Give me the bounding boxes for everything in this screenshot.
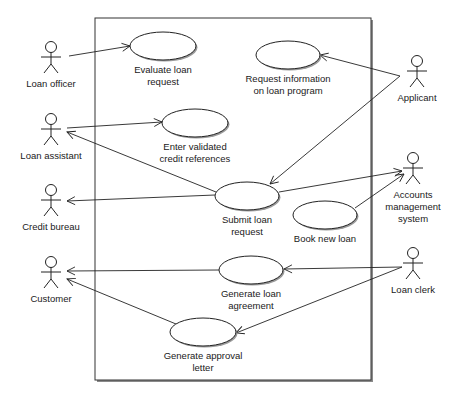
use-case-book-new-loan[interactable]: Book new loan bbox=[293, 201, 359, 244]
actor-label: Loan officer bbox=[26, 78, 75, 89]
actor-label: Loan assistant bbox=[20, 150, 82, 161]
actor-applicant[interactable]: Applicant bbox=[397, 56, 436, 104]
actor-label: Loan clerk bbox=[391, 284, 435, 295]
actor-loan-clerk[interactable]: Loan clerk bbox=[391, 248, 435, 296]
use-case-label: Generate loan bbox=[221, 288, 281, 299]
actor-label: Accounts bbox=[393, 189, 432, 200]
use-case-label: credit references bbox=[160, 153, 231, 164]
actor-loan-officer[interactable]: Loan officer bbox=[26, 42, 75, 90]
actor-accounts-management-system[interactable]: Accountsmanagementsystem bbox=[385, 153, 441, 225]
stick-figure-icon bbox=[41, 42, 61, 74]
stick-figure-icon bbox=[403, 248, 423, 280]
use-case-ellipse[interactable] bbox=[215, 182, 279, 210]
use-case-label: request bbox=[147, 76, 179, 87]
use-case-label: Request information bbox=[245, 73, 330, 84]
use-case-label: Generate approval bbox=[164, 350, 243, 361]
use-case-label: Evaluate loan bbox=[134, 64, 192, 75]
stick-figure-icon bbox=[41, 114, 61, 146]
actor-credit-bureau[interactable]: Credit bureau bbox=[22, 185, 80, 233]
use-case-ellipse[interactable] bbox=[256, 41, 320, 69]
use-case-label: on loan program bbox=[253, 85, 322, 96]
use-case-ellipse[interactable] bbox=[293, 201, 357, 229]
actor-label: management bbox=[385, 201, 441, 212]
actor-label: Credit bureau bbox=[22, 221, 80, 232]
use-case-diagram: Evaluate loanrequestRequest informationo… bbox=[0, 0, 461, 393]
use-case-ellipse[interactable] bbox=[162, 109, 228, 137]
use-case-label: letter bbox=[192, 362, 213, 373]
stick-figure-icon bbox=[41, 257, 61, 289]
actor-label: Customer bbox=[30, 293, 71, 304]
use-case-ellipse[interactable] bbox=[219, 256, 283, 284]
actor-label: system bbox=[398, 213, 428, 224]
use-case-label: agreement bbox=[228, 300, 274, 311]
actor-label: Applicant bbox=[397, 92, 436, 103]
stick-figure-icon bbox=[403, 153, 423, 185]
use-case-label: request bbox=[231, 226, 263, 237]
use-case-ellipse[interactable] bbox=[130, 32, 196, 60]
use-case-label: Enter validated bbox=[163, 141, 226, 152]
actor-customer[interactable]: Customer bbox=[30, 257, 71, 305]
actor-loan-assistant[interactable]: Loan assistant bbox=[20, 114, 82, 162]
use-case-ellipse[interactable] bbox=[170, 318, 236, 346]
use-case-label: Submit loan bbox=[222, 214, 272, 225]
use-case-label: Book new loan bbox=[294, 233, 356, 244]
stick-figure-icon bbox=[407, 56, 427, 88]
stick-figure-icon bbox=[41, 185, 61, 217]
